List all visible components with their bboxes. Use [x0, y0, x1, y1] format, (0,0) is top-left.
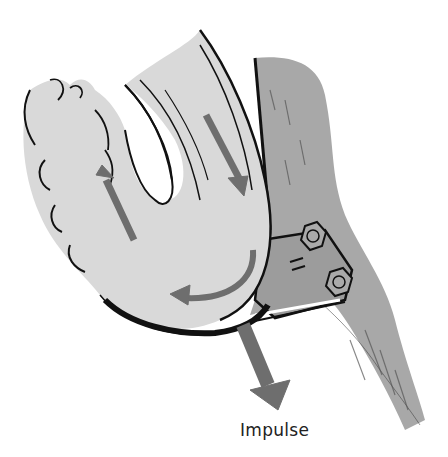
- impulse-label: Impulse: [240, 420, 309, 440]
- impulse-illustration: [0, 0, 448, 457]
- bracket: [250, 57, 425, 430]
- impulse-arrow: [243, 325, 290, 410]
